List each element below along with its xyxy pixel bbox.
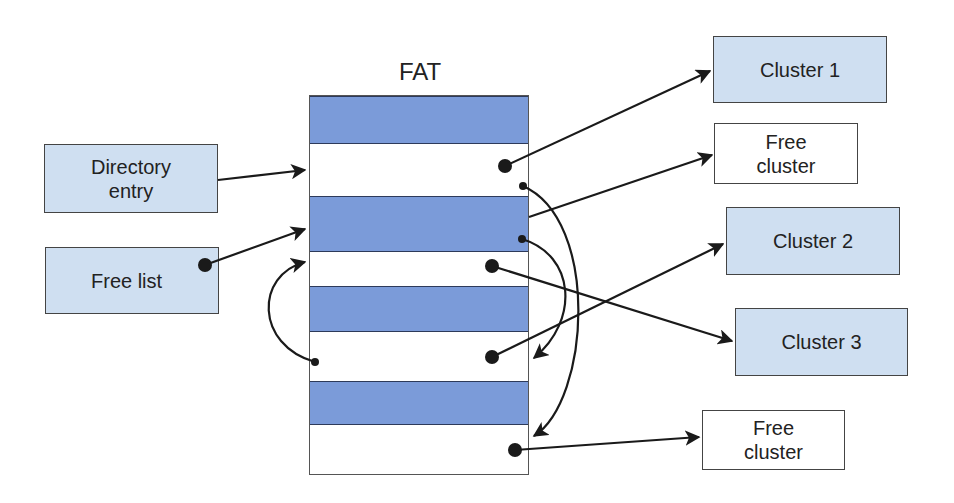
arrow-fat1-to-cluster1 [505, 71, 710, 166]
arrow-freelist-to-fat [205, 229, 305, 265]
cluster-2-box: Cluster 2 [726, 207, 900, 275]
arrow-fat7-to-freecluster-bottom [515, 437, 699, 450]
fat-row-6 [310, 381, 528, 425]
fat-row-2 [310, 196, 528, 252]
fat-row-7 [310, 425, 528, 475]
cluster-3-box: Cluster 3 [735, 308, 908, 376]
fat-row-5 [310, 332, 528, 381]
directory-entry-box: Directory entry [44, 144, 218, 213]
cluster-1-label: Cluster 1 [760, 58, 840, 82]
fat-row-0 [310, 96, 528, 144]
free-cluster-bottom-line1: Free [753, 416, 794, 440]
fat-title: FAT [384, 58, 456, 86]
arrow-fat2-to-freecluster-top [529, 155, 712, 217]
free-list-box: Free list [45, 247, 219, 314]
directory-entry-label-line1: Directory [91, 155, 171, 179]
directory-entry-label-line2: entry [109, 179, 153, 203]
free-cluster-top-line2: cluster [757, 154, 816, 178]
cluster-2-label: Cluster 2 [773, 229, 853, 253]
free-cluster-top-line1: Free [765, 130, 806, 154]
cluster-3-label: Cluster 3 [781, 330, 861, 354]
free-cluster-top-box: Free cluster [714, 123, 858, 184]
free-list-label: Free list [91, 269, 162, 293]
fat-row-4 [310, 286, 528, 332]
fat-row-1 [310, 144, 528, 196]
fat-row-3 [310, 252, 528, 286]
free-cluster-bottom-box: Free cluster [702, 410, 845, 470]
arrow-directory-to-fat [218, 170, 305, 180]
free-cluster-bottom-line2: cluster [744, 440, 803, 464]
cluster-1-box: Cluster 1 [713, 36, 887, 103]
fat-table [309, 95, 529, 475]
curve-fat1-to-fat7 [523, 186, 578, 436]
